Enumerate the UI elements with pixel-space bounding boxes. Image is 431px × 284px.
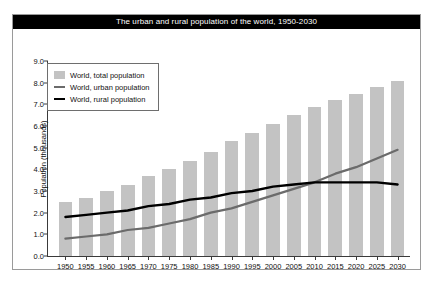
legend-item-urban: World, urban population [54,81,150,93]
x-tick-label: 1965 [119,262,136,271]
x-tick-label: 2025 [369,262,386,271]
x-tick-label: 2030 [389,262,406,271]
x-tick-label: 2000 [265,262,282,271]
x-tick-label: 1990 [223,262,240,271]
y-tick-label: 4.0 [34,165,44,174]
x-tick-label: 1950 [57,262,74,271]
y-tick-label: 6.0 [34,122,44,131]
y-tick-label: 1.0 [34,230,44,239]
x-tick-label: 1980 [182,262,199,271]
legend-urban-line-icon [54,86,65,88]
x-tick-label: 1970 [140,262,157,271]
chart-legend: World, total population World, urban pop… [47,63,159,111]
legend-item-total: World, total population [54,69,150,81]
x-tick-label: 1955 [78,262,95,271]
x-tick-label: 1995 [244,262,261,271]
x-tick-label: 1975 [161,262,178,271]
x-tick-label: 2015 [327,262,344,271]
y-tick-label: 0.0 [34,252,44,261]
y-tick-label: 9.0 [34,57,44,66]
y-tick-label: 3.0 [34,187,44,196]
chart-figure: The urban and rural population of the wo… [12,14,421,270]
y-tick-label: 7.0 [34,100,44,109]
x-tick-label: 1960 [99,262,116,271]
x-tick-label: 1985 [202,262,219,271]
y-tick-label: 8.0 [34,78,44,87]
x-tick-label: 2020 [348,262,365,271]
x-tick-label: 2010 [306,262,323,271]
legend-label-rural: World, rural population [70,95,145,104]
y-tick-label: 2.0 [34,208,44,217]
chart-title: The urban and rural population of the wo… [13,15,420,29]
legend-label-total: World, total population [70,71,145,80]
y-tick-label: 5.0 [34,143,44,152]
legend-item-rural: World, rural population [54,93,150,105]
rural-population-line [65,182,397,217]
legend-bar-swatch-icon [54,71,65,79]
legend-rural-line-icon [54,98,65,101]
legend-label-urban: World, urban population [70,83,150,92]
x-tick-label: 2005 [285,262,302,271]
